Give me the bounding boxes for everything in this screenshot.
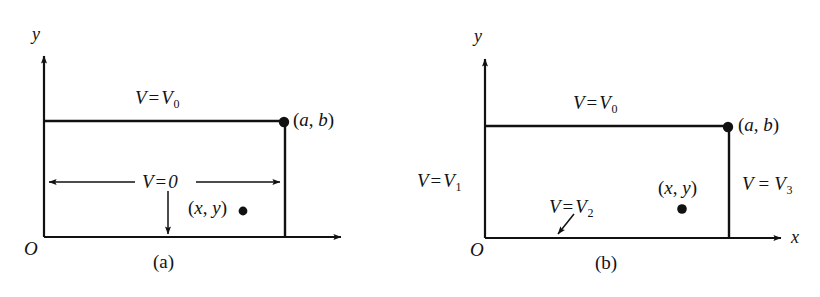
panel-b-right-boundary-eq: = [754,173,775,194]
panel-b-top-boundary-sub: 0 [611,102,618,116]
panel-a-interior-comma: , [203,197,213,218]
panel-a-top-boundary-value: V [161,87,173,108]
panel-a-origin-label: O [24,239,38,258]
panel-a-interior-close-paren: ) [221,197,227,218]
panel-a-top-boundary-V: V [135,87,147,108]
panel-b-origin-label: O [470,240,484,259]
panel-b-top-boundary-value: V [599,92,611,113]
panel-a-corner-y: b [318,109,328,130]
panel-b-interior-point-label: (x, y) [658,178,697,197]
panel-a-corner-close-paren: ) [328,109,334,130]
panel-a-interior-point-dot [239,207,248,216]
panel-b-left-boundary-eq: = [429,170,444,191]
panel-b-interior-y: y [682,177,690,198]
panel-b-bottom-boundary-value: V [575,196,587,217]
panel-b-right-boundary-label: V=V3 [742,174,792,196]
panel-b-interior-point-dot [677,204,687,214]
panel-a-corner-x: a [299,109,309,130]
panel-b-bottom-boundary-sub: 2 [587,206,594,220]
panel-a-interior-point-label: (x, y) [188,198,227,217]
panel-b-left-boundary-label: V=V1 [417,171,461,193]
panel-a-top-boundary-label: V=V0 [135,88,179,110]
panel-b-bottom-boundary-V: V [549,196,561,217]
panel-b-corner-y: b [763,114,773,135]
panel-a-top-boundary-eq: = [147,87,162,108]
panel-b-right-boundary-V: V [742,173,754,194]
panel-b-right-boundary-value: V [774,173,786,194]
panel-b-corner-x: a [744,114,754,135]
panel-b-left-boundary-sub: 1 [455,180,462,194]
panel-a-zero-boundary-label: V=0 [138,172,182,191]
panel-b-caption-text: (b) [595,252,617,273]
panel-b-graphics [484,59,781,239]
panel-a-corner-point-dot [279,117,289,127]
panel-b-top-boundary-V: V [573,92,585,113]
panel-b-corner-close-paren: ) [773,114,779,135]
panel-a-caption: (a) [153,252,174,271]
panel-a-top-boundary-sub: 0 [173,97,180,111]
panel-b-bottom-boundary-label: V=V2 [549,197,593,219]
panel-a-y-axis-label: y [32,25,40,43]
panel-b-left-boundary-value: V [443,170,455,191]
panel-b-x-axis-label: x [791,228,799,246]
panel-b-top-boundary-eq: = [585,92,600,113]
panel-a-caption-text: (a) [153,251,174,272]
panel-b-right-boundary-sub: 3 [786,183,793,197]
panel-b-left-boundary-V: V [417,170,429,191]
diagram-canvas [0,0,820,297]
panel-b-corner-comma: , [754,114,764,135]
figure-container: y O V=V0 V=0 (a, b) (x, y) (a) y x O V=V… [0,0,820,297]
panel-b-interior-close-paren: ) [691,177,697,198]
panel-b-bottom-boundary-eq: = [561,196,576,217]
panel-b-top-boundary-label: V=V0 [573,93,617,115]
panel-a-zero-boundary-value: 0 [168,171,178,192]
panel-a-corner-comma: , [309,109,319,130]
panel-b-corner-point-label: (a, b) [738,115,779,134]
panel-b-caption: (b) [595,253,617,272]
panel-b-interior-x: x [664,177,672,198]
panel-a-zero-boundary-eq: = [154,171,169,192]
panel-a-zero-boundary-V: V [142,171,154,192]
panel-b-interior-comma: , [673,177,683,198]
panel-a-interior-y: y [212,197,220,218]
panel-b-y-axis-label: y [474,27,482,45]
panel-a-corner-point-label: (a, b) [293,110,334,129]
panel-a-interior-x: x [194,197,202,218]
panel-b-corner-point-dot [723,122,733,132]
